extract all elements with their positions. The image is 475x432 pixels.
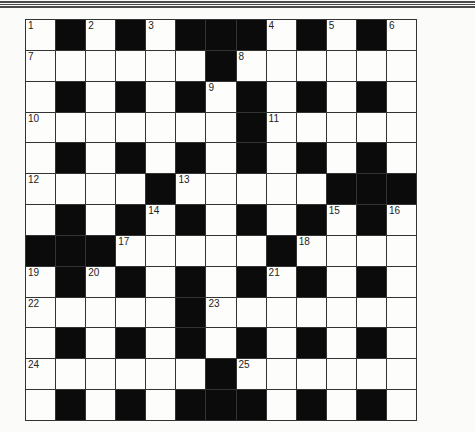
crossword-cell[interactable] [26, 328, 55, 358]
crossword-cell[interactable] [387, 51, 416, 81]
crossword-cell[interactable] [56, 51, 85, 81]
crossword-cell[interactable] [146, 267, 175, 297]
crossword-cell[interactable] [327, 298, 356, 328]
crossword-cell[interactable] [387, 328, 416, 358]
crossword-cell[interactable] [327, 51, 356, 81]
crossword-cell[interactable] [116, 51, 145, 81]
crossword-cell[interactable] [86, 359, 115, 389]
crossword-cell[interactable]: 6 [387, 20, 416, 50]
crossword-cell[interactable]: 14 [146, 205, 175, 235]
crossword-cell[interactable]: 7 [26, 51, 55, 81]
crossword-cell[interactable] [297, 113, 326, 143]
crossword-cell[interactable] [237, 298, 266, 328]
crossword-cell[interactable] [146, 143, 175, 173]
crossword-cell[interactable] [267, 205, 296, 235]
crossword-cell[interactable]: 3 [146, 20, 175, 50]
crossword-cell[interactable] [146, 113, 175, 143]
crossword-cell[interactable] [327, 390, 356, 420]
crossword-cell[interactable] [327, 328, 356, 358]
crossword-cell[interactable]: 12 [26, 174, 55, 204]
crossword-cell[interactable]: 22 [26, 298, 55, 328]
crossword-cell[interactable] [206, 174, 235, 204]
crossword-cell[interactable] [26, 143, 55, 173]
crossword-cell[interactable] [387, 113, 416, 143]
crossword-cell[interactable] [206, 143, 235, 173]
crossword-cell[interactable] [56, 359, 85, 389]
crossword-cell[interactable] [387, 390, 416, 420]
crossword-cell[interactable]: 18 [297, 236, 326, 266]
crossword-cell[interactable] [146, 82, 175, 112]
crossword-cell[interactable] [267, 51, 296, 81]
crossword-cell[interactable] [327, 82, 356, 112]
crossword-cell[interactable]: 8 [237, 51, 266, 81]
crossword-cell[interactable] [206, 236, 235, 266]
crossword-cell[interactable]: 9 [206, 82, 235, 112]
crossword-cell[interactable] [56, 174, 85, 204]
crossword-cell[interactable] [206, 205, 235, 235]
crossword-cell[interactable] [357, 236, 386, 266]
crossword-cell[interactable] [297, 359, 326, 389]
crossword-cell[interactable]: 20 [86, 267, 115, 297]
crossword-cell[interactable] [116, 113, 145, 143]
crossword-cell[interactable]: 10 [26, 113, 55, 143]
crossword-cell[interactable]: 24 [26, 359, 55, 389]
crossword-cell[interactable]: 25 [237, 359, 266, 389]
crossword-cell[interactable] [327, 359, 356, 389]
crossword-cell[interactable] [267, 390, 296, 420]
crossword-cell[interactable] [176, 113, 205, 143]
crossword-cell[interactable] [116, 298, 145, 328]
crossword-cell[interactable]: 23 [206, 298, 235, 328]
crossword-cell[interactable] [176, 236, 205, 266]
crossword-cell[interactable] [387, 236, 416, 266]
crossword-cell[interactable] [86, 174, 115, 204]
crossword-cell[interactable] [387, 82, 416, 112]
crossword-cell[interactable] [86, 143, 115, 173]
crossword-cell[interactable] [26, 82, 55, 112]
crossword-cell[interactable] [267, 359, 296, 389]
crossword-cell[interactable] [327, 267, 356, 297]
crossword-cell[interactable]: 19 [26, 267, 55, 297]
crossword-cell[interactable] [86, 51, 115, 81]
crossword-cell[interactable]: 2 [86, 20, 115, 50]
crossword-cell[interactable] [86, 328, 115, 358]
crossword-cell[interactable] [146, 390, 175, 420]
crossword-cell[interactable]: 16 [387, 205, 416, 235]
crossword-cell[interactable] [357, 359, 386, 389]
crossword-cell[interactable] [176, 359, 205, 389]
crossword-cell[interactable] [56, 298, 85, 328]
crossword-cell[interactable] [26, 205, 55, 235]
crossword-cell[interactable] [387, 143, 416, 173]
crossword-cell[interactable]: 13 [176, 174, 205, 204]
crossword-cell[interactable] [86, 205, 115, 235]
crossword-cell[interactable] [297, 298, 326, 328]
crossword-cell[interactable] [86, 82, 115, 112]
crossword-cell[interactable] [267, 328, 296, 358]
crossword-cell[interactable] [86, 113, 115, 143]
crossword-cell[interactable] [146, 359, 175, 389]
crossword-cell[interactable] [116, 174, 145, 204]
crossword-cell[interactable] [146, 236, 175, 266]
crossword-cell[interactable] [387, 359, 416, 389]
crossword-cell[interactable] [237, 174, 266, 204]
crossword-cell[interactable] [86, 390, 115, 420]
crossword-cell[interactable] [297, 51, 326, 81]
crossword-cell[interactable] [357, 51, 386, 81]
crossword-cell[interactable] [297, 174, 326, 204]
crossword-cell[interactable] [146, 298, 175, 328]
crossword-cell[interactable] [357, 113, 386, 143]
crossword-cell[interactable] [267, 298, 296, 328]
crossword-cell[interactable] [357, 298, 386, 328]
crossword-cell[interactable]: 21 [267, 267, 296, 297]
crossword-cell[interactable]: 11 [267, 113, 296, 143]
crossword-cell[interactable] [176, 51, 205, 81]
crossword-cell[interactable] [267, 174, 296, 204]
crossword-cell[interactable]: 4 [267, 20, 296, 50]
crossword-cell[interactable] [206, 267, 235, 297]
crossword-cell[interactable] [387, 267, 416, 297]
crossword-cell[interactable] [267, 82, 296, 112]
crossword-cell[interactable] [327, 113, 356, 143]
crossword-cell[interactable] [146, 328, 175, 358]
crossword-cell[interactable] [237, 236, 266, 266]
crossword-cell[interactable]: 1 [26, 20, 55, 50]
crossword-cell[interactable] [116, 359, 145, 389]
